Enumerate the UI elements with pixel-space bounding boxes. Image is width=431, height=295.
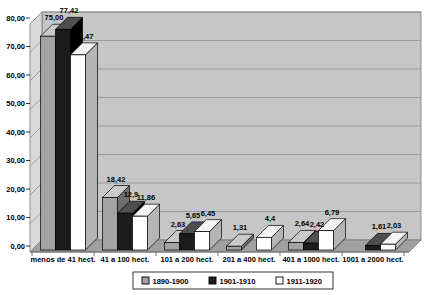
bar xyxy=(381,244,396,250)
bar-value-label: 2,63 xyxy=(171,220,186,229)
bar-value-label: 68,47 xyxy=(75,32,94,41)
bar-value-label: 2,42 xyxy=(310,220,325,229)
y-axis-label: 20,00 xyxy=(6,185,25,194)
bar xyxy=(103,198,118,250)
category-label: 41 a 100 hect. xyxy=(101,255,150,264)
bar-value-label: 4,4 xyxy=(265,214,276,223)
category-label: 1001 a 2000 hect. xyxy=(342,255,403,264)
bar-value-label: 11,86 xyxy=(137,193,155,202)
bar-value-label: 1,61 xyxy=(372,222,387,231)
y-axis-label: 40,00 xyxy=(6,128,25,137)
bar xyxy=(56,29,71,250)
bar-value-label: 6,79 xyxy=(325,208,340,217)
legend-label: 1911-1920 xyxy=(287,277,322,286)
bar-side xyxy=(86,43,98,250)
legend-swatch xyxy=(276,277,283,284)
category-label: 201 a 400 hect. xyxy=(223,255,276,264)
legend-swatch xyxy=(142,277,149,284)
legend-swatch xyxy=(209,277,216,284)
y-axis-label: 0,00 xyxy=(10,242,25,251)
bar xyxy=(133,216,148,250)
legend-label: 1890-1900 xyxy=(153,277,189,286)
y-axis-label: 30,00 xyxy=(6,156,25,165)
bar-value-label: 77,42 xyxy=(60,6,79,15)
bar xyxy=(366,245,381,250)
legend-label: 1901-1910 xyxy=(220,277,256,286)
bar-value-label: 18,42 xyxy=(107,175,126,184)
bar-value-label: 2,03 xyxy=(387,221,402,230)
bar xyxy=(319,231,334,250)
bar xyxy=(118,213,133,250)
category-label: 101 a 200 hect. xyxy=(161,255,214,264)
bar xyxy=(289,242,304,250)
bar-value-label: 1,31 xyxy=(233,223,248,232)
chart-screenshot: 0,0010,0020,0030,0040,0050,0060,0070,008… xyxy=(0,0,431,295)
bar xyxy=(227,246,242,250)
bar-value-label: 6,45 xyxy=(201,209,216,218)
y-axis-label: 60,00 xyxy=(6,71,25,80)
bar xyxy=(71,55,86,250)
bar xyxy=(165,243,180,250)
y-axis-label: 70,00 xyxy=(6,42,25,51)
bar xyxy=(195,232,210,250)
chart-svg: 0,0010,0020,0030,0040,0050,0060,0070,008… xyxy=(0,0,431,295)
bar-value-label: 2,64 xyxy=(295,219,310,228)
y-axis-label: 80,00 xyxy=(6,14,25,23)
y-axis-label: 50,00 xyxy=(6,99,25,108)
category-label: 401 a 1000 hect. xyxy=(282,255,339,264)
bar xyxy=(304,243,319,250)
bar xyxy=(41,36,56,250)
bar-value-label: 5,65 xyxy=(186,211,201,220)
category-label: menos de 41 hect. xyxy=(30,255,95,264)
bar xyxy=(257,237,272,250)
y-axis-label: 10,00 xyxy=(6,213,25,222)
bar xyxy=(180,234,195,250)
